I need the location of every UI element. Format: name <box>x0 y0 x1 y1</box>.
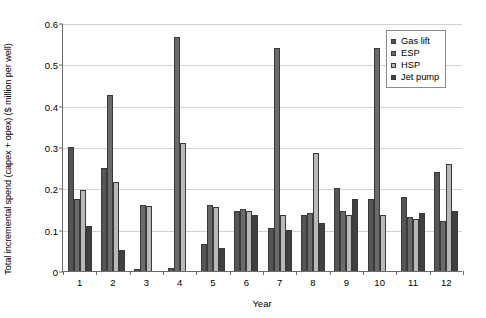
x-axis-title: Year <box>62 298 462 309</box>
bar-group <box>296 24 329 271</box>
legend-swatch-icon <box>391 39 396 44</box>
y-tick-label: 0.3 <box>45 143 58 154</box>
x-tick-label: 8 <box>310 277 315 288</box>
bar <box>380 215 386 271</box>
y-tick-label: 0.5 <box>45 60 58 71</box>
bar-group <box>163 24 196 271</box>
legend-item: Jet pump <box>391 71 439 83</box>
x-tick-label: 1 <box>77 277 82 288</box>
x-tick-label: 9 <box>344 277 349 288</box>
legend-swatch-icon <box>391 51 396 56</box>
legend-label: Jet pump <box>401 72 439 82</box>
x-tick-mark <box>296 271 297 275</box>
bar-group <box>263 24 296 271</box>
x-tick-mark <box>96 271 97 275</box>
x-tick-mark <box>230 271 231 275</box>
x-tick-label: 7 <box>277 277 282 288</box>
y-axis-title: Total incremental spend (capex + opex) (… <box>0 0 16 318</box>
legend: Gas liftESPHSPJet pump <box>386 30 446 88</box>
x-tick-label: 3 <box>144 277 149 288</box>
bar-group <box>130 24 163 271</box>
x-tick-label: 4 <box>177 277 182 288</box>
bar <box>86 226 92 271</box>
legend-swatch-icon <box>391 63 396 68</box>
bar <box>419 213 425 271</box>
bar <box>319 223 325 271</box>
bar <box>146 206 152 271</box>
x-tick-mark <box>63 271 64 275</box>
bar-group <box>63 24 96 271</box>
bar <box>286 230 292 271</box>
x-tick-mark <box>163 271 164 275</box>
x-tick-mark <box>196 271 197 275</box>
x-tick-label: 2 <box>110 277 115 288</box>
x-tick-label: 10 <box>374 277 385 288</box>
bar-group <box>196 24 229 271</box>
x-tick-mark <box>463 271 464 275</box>
legend-item: ESP <box>391 47 439 59</box>
bar <box>252 215 258 271</box>
legend-swatch-icon <box>391 75 396 80</box>
bar <box>119 250 125 271</box>
legend-label: ESP <box>401 48 420 58</box>
x-tick-label: 5 <box>210 277 215 288</box>
bar <box>452 211 458 271</box>
bar <box>180 143 186 271</box>
x-tick-label: 12 <box>441 277 452 288</box>
legend-item: HSP <box>391 59 439 71</box>
bar-group <box>96 24 129 271</box>
bar-chart: Total incremental spend (capex + opex) (… <box>0 0 486 318</box>
y-tick-label: 0 <box>53 267 58 278</box>
y-tick-label: 0.2 <box>45 184 58 195</box>
x-tick-mark <box>130 271 131 275</box>
y-tick-label: 0.6 <box>45 19 58 30</box>
x-tick-mark <box>263 271 264 275</box>
legend-label: HSP <box>401 60 420 70</box>
y-tick-label: 0.4 <box>45 101 58 112</box>
bar <box>219 248 225 271</box>
y-tick-label: 0.1 <box>45 225 58 236</box>
x-tick-mark <box>330 271 331 275</box>
x-tick-label: 6 <box>244 277 249 288</box>
x-tick-mark <box>396 271 397 275</box>
bar-group <box>330 24 363 271</box>
legend-item: Gas lift <box>391 35 439 47</box>
bar-group <box>230 24 263 271</box>
x-tick-label: 11 <box>408 277 418 288</box>
bar <box>352 199 358 271</box>
x-tick-mark <box>363 271 364 275</box>
legend-label: Gas lift <box>401 36 430 46</box>
x-tick-mark <box>430 271 431 275</box>
